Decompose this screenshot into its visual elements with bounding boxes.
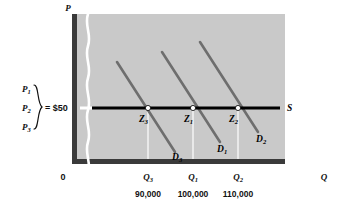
figure-canvas: Z3 Z1 Z2 D3 D1 D2 S P Q 0 P1 P2	[0, 0, 337, 208]
origin-label: 0	[60, 172, 65, 182]
x-axis-title: Q	[321, 172, 328, 182]
point-z3[interactable]	[145, 105, 150, 110]
x-value-q1: 100,000	[178, 189, 209, 199]
point-z1[interactable]	[190, 105, 195, 110]
plot-area	[72, 14, 285, 164]
x-value-q2: 110,000	[223, 189, 254, 199]
x-value-q3: 90,000	[135, 189, 161, 199]
price-equals-label: = $50	[45, 103, 68, 113]
y-axis-title: P	[65, 3, 71, 13]
curve-label-s: S	[287, 103, 292, 113]
point-z2[interactable]	[235, 105, 240, 110]
